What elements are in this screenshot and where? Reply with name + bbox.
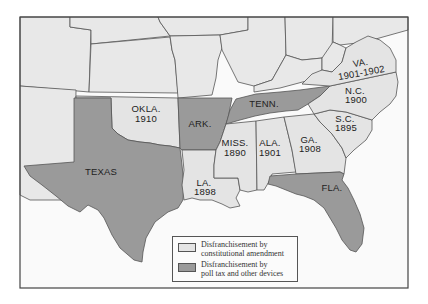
legend-text-line2: poll tax and other devices — [201, 270, 283, 279]
label-fla: FLA. — [322, 182, 343, 193]
legend-item-constitutional: Disfranchisement by constitutional amend… — [178, 241, 284, 258]
label-okla-year: 1910 — [135, 113, 157, 124]
legend-item-poll-tax: Disfranchisement by poll tax and other d… — [178, 261, 283, 278]
legend-swatch-light — [178, 243, 196, 252]
label-tenn: TENN. — [249, 98, 279, 109]
map-container: OKLA. 1910 ARK. TENN. TEXAS LA. 1898 MIS… — [0, 0, 428, 304]
label-texas: TEXAS — [85, 166, 117, 177]
label-ala-year: 1901 — [259, 147, 281, 158]
label-ga-year: 1908 — [299, 143, 321, 154]
legend-text-line2: constitutional amendment — [201, 250, 284, 259]
legend-swatch-dark — [178, 263, 196, 272]
label-ark: ARK. — [189, 118, 212, 129]
label-sc-year: 1895 — [335, 122, 357, 133]
label-miss-year: 1890 — [224, 147, 246, 158]
map-legend: Disfranchisement by constitutional amend… — [172, 236, 298, 282]
label-nc-year: 1900 — [345, 94, 367, 105]
label-la-year: 1898 — [194, 186, 216, 197]
